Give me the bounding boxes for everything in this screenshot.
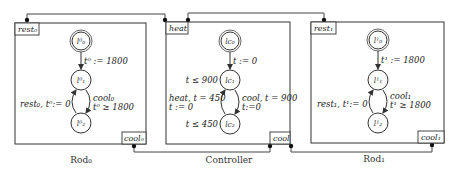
- automaton-controller: heat cool lc₀ lc₁ lc₂ t ≤ 900 t ≤ 450 t …: [166, 22, 298, 165]
- caption-controller: Controller: [206, 155, 254, 165]
- svg-text:l¹₀: l¹₀: [374, 36, 382, 45]
- svg-text:t¹ ≥ 1800: t¹ ≥ 1800: [390, 100, 432, 110]
- svg-text:lc₀: lc₀: [225, 37, 235, 46]
- svg-text:lc₁: lc₁: [225, 76, 235, 85]
- caption-rod0: Rod₀: [70, 155, 92, 165]
- edge-fwd: [86, 90, 90, 113]
- wire-cool0-cool: [134, 146, 270, 152]
- caption-rod1: Rod₁: [363, 154, 385, 164]
- edge-back: [369, 90, 373, 113]
- wire-heat-rest1: [188, 13, 324, 20]
- svg-text:l⁰₀: l⁰₀: [77, 37, 85, 46]
- svg-text:rest₀, t⁰:= 0: rest₀, t⁰:= 0: [20, 99, 71, 109]
- port-rest0-label: rest₀: [18, 25, 38, 34]
- svg-text:t := 0: t := 0: [233, 56, 258, 66]
- invariant-lc1: t ≤ 900: [186, 75, 219, 85]
- svg-text:t := 0: t := 0: [169, 102, 194, 112]
- port-heat-label: heat: [169, 24, 188, 33]
- svg-text:rest₁, t¹:= 0: rest₁, t¹:= 0: [317, 99, 368, 109]
- svg-text:t:=0: t:=0: [242, 102, 261, 112]
- wire-rest0-heat: [27, 14, 165, 20]
- svg-text:t⁰ ≥ 1800: t⁰ ≥ 1800: [93, 102, 135, 112]
- invariant-lc2: t ≤ 450: [186, 119, 219, 129]
- port-dot: [25, 18, 29, 22]
- port-cool0-label: cool₀: [124, 134, 145, 143]
- edge-back: [72, 90, 76, 113]
- wire-cool-cool1: [291, 145, 432, 152]
- svg-text:t¹ := 1800: t¹ := 1800: [381, 55, 425, 65]
- svg-text:l¹₁: l¹₁: [374, 76, 382, 85]
- svg-text:l¹₂: l¹₂: [374, 119, 382, 128]
- svg-text:l⁰₂: l⁰₂: [77, 119, 85, 128]
- svg-text:lc₂: lc₂: [225, 120, 235, 129]
- edge-fwd: [383, 90, 387, 113]
- svg-text:t⁰ := 1800: t⁰ := 1800: [84, 56, 128, 66]
- port-cool-label: cool: [273, 134, 290, 143]
- automaton-rod0: rest₀ cool₀ l⁰₀ l⁰₁ l⁰₂ t⁰ := 1800 rest₀…: [15, 23, 146, 165]
- port-cool1-label: cool₁: [421, 133, 441, 142]
- timed-automata-diagram: rest₀ cool₀ l⁰₀ l⁰₁ l⁰₂ t⁰ := 1800 rest₀…: [0, 0, 459, 172]
- svg-text:l⁰₁: l⁰₁: [77, 76, 85, 85]
- automaton-rod1: rest₁ cool₁ l¹₀ l¹₁ l¹₂ t¹ := 1800 rest₁…: [311, 22, 444, 164]
- port-rest1-label: rest₁: [314, 24, 333, 33]
- edge-fwd: [235, 90, 239, 114]
